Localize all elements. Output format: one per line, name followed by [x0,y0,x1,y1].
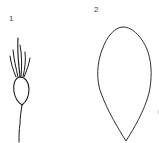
diagram-canvas [0,0,159,143]
achene-with-pappus-icon [10,38,30,142]
teardrop-outline-icon [98,27,151,141]
